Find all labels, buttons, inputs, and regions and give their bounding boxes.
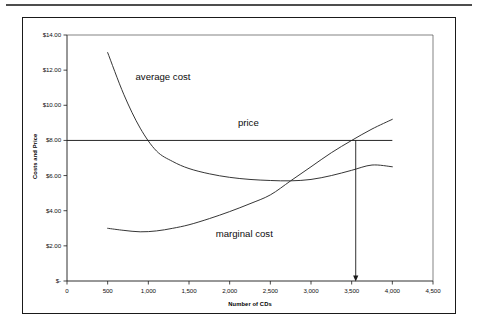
x-tick-label: 500: [88, 287, 128, 294]
x-tick-label: 3,500: [332, 287, 372, 294]
chart-plot-area: [23, 18, 454, 312]
y-tick-label: $6.00: [23, 172, 61, 179]
series-label-average-cost: average cost: [136, 71, 191, 82]
y-tick-label: $2.00: [23, 242, 61, 249]
y-tick-label: $8.00: [23, 136, 61, 143]
y-tick-label: $4.00: [23, 207, 61, 214]
y-tick-label: $-: [23, 277, 61, 284]
y-tick-label: $14.00: [23, 31, 61, 38]
chart-frame: Costs and Price Number of CDs $-$2.00$4.…: [22, 17, 456, 314]
y-tick-label: $12.00: [23, 66, 61, 73]
x-tick-label: 1,500: [169, 287, 209, 294]
y-tick-label: $10.00: [23, 101, 61, 108]
x-tick-label: 1,000: [128, 287, 168, 294]
series-line-marginal-cost: [108, 119, 393, 231]
x-tick-label: 0: [47, 287, 87, 294]
x-tick-label: 2,500: [250, 287, 290, 294]
series-label-marginal-cost: marginal cost: [216, 228, 273, 239]
x-tick-label: 2,000: [210, 287, 250, 294]
series-label-price: price: [238, 117, 259, 128]
x-tick-label: 4,000: [372, 287, 412, 294]
x-axis-title: Number of CDs: [67, 301, 433, 307]
x-tick-label: 4,500: [413, 287, 453, 294]
x-tick-label: 3,000: [291, 287, 331, 294]
page-top-rule: [6, 4, 472, 6]
